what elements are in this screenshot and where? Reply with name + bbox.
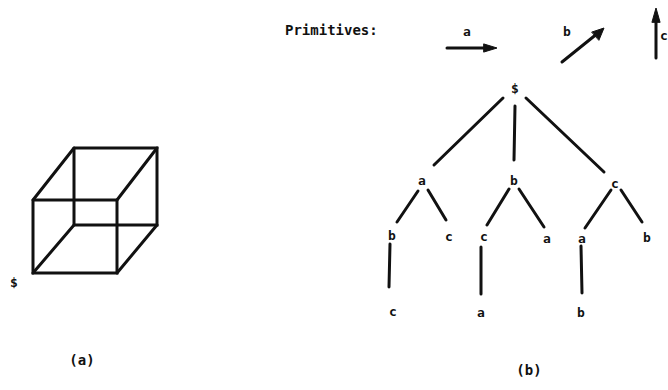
- primitive-arrows: [447, 8, 660, 62]
- tree-node-l2: c: [480, 230, 488, 243]
- tree-root: $: [511, 82, 519, 95]
- tree-node-l2: a: [543, 232, 551, 245]
- cube-start-label: $: [10, 276, 18, 289]
- primitive-c-label: c: [660, 29, 668, 42]
- primitives-title: Primitives:: [285, 22, 378, 38]
- tree-node-l2: c: [445, 230, 453, 243]
- caption-a: (a): [69, 352, 94, 368]
- tree-node-l2: b: [643, 231, 651, 244]
- tree-node-l3: c: [389, 305, 397, 318]
- tree-node-l1: a: [418, 174, 426, 187]
- primitive-b-label: b: [563, 25, 571, 38]
- tree-node-l1: b: [510, 174, 518, 187]
- caption-b: (b): [516, 362, 541, 378]
- tree-node-l2: b: [388, 229, 396, 242]
- tree-edges: [389, 98, 642, 294]
- cube: [33, 148, 157, 273]
- tree-node-l3: a: [477, 306, 485, 319]
- tree-node-l2: a: [578, 232, 586, 245]
- tree-node-l3: b: [577, 306, 585, 319]
- tree-node-l1: c: [611, 177, 619, 190]
- primitive-a-label: a: [463, 25, 471, 38]
